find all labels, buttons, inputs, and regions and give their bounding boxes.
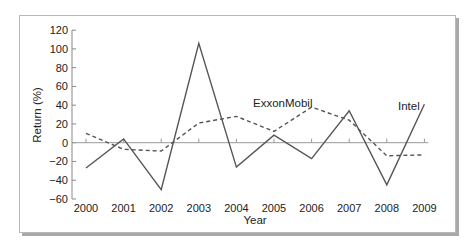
series-line-intel <box>86 43 424 189</box>
series-label-exxonmobil: ExxonMobil <box>253 97 312 109</box>
y-tick-label: 100 <box>50 43 68 55</box>
y-tick-label: −60 <box>49 193 68 205</box>
x-axis-title: Year <box>243 214 266 226</box>
y-tick-label: 40 <box>56 99 68 111</box>
y-tick-label: −20 <box>49 155 68 167</box>
x-tick-label: 2006 <box>299 202 323 214</box>
x-tick-label: 2008 <box>375 202 399 214</box>
x-tick-label: 2000 <box>74 202 98 214</box>
x-tick-label: 2007 <box>337 202 361 214</box>
y-axis: 120100806040200−20−40−60 <box>49 24 76 205</box>
line-chart: 120100806040200−20−40−60 200020012002200… <box>0 0 473 247</box>
y-tick-label: 0 <box>62 137 68 149</box>
y-tick-label: 20 <box>56 118 68 130</box>
x-tick-label: 2009 <box>412 202 436 214</box>
x-tick-label: 2005 <box>262 202 286 214</box>
y-tick-label: 120 <box>50 24 68 36</box>
y-axis-title: Return (%) <box>31 87 43 143</box>
x-tick-label: 2002 <box>149 202 173 214</box>
x-tick-label: 2004 <box>224 202 248 214</box>
y-tick-label: −40 <box>49 174 68 186</box>
x-tick-label: 2001 <box>111 202 135 214</box>
series-lines <box>86 43 424 189</box>
y-tick-label: 60 <box>56 80 68 92</box>
y-tick-label: 80 <box>56 62 68 74</box>
series-line-exxonmobil <box>86 107 424 156</box>
series-label-intel: Intel <box>398 100 420 112</box>
x-tick-label: 2003 <box>187 202 211 214</box>
